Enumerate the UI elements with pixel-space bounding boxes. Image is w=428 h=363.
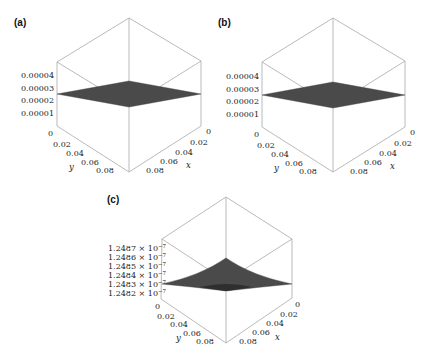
z-axis-ticks: 1.2487 × 10−7 1.2486 × 10−7 1.2485 × 10−… xyxy=(108,243,167,298)
surface-plane xyxy=(262,82,405,108)
y-axis-ticks: 0 0.02 0.04 0.06 0.08 y xyxy=(254,130,317,176)
y-axis-label: y xyxy=(175,333,181,343)
svg-text:0: 0 xyxy=(295,300,300,309)
svg-text:0.04: 0.04 xyxy=(379,149,397,158)
svg-text:0.08: 0.08 xyxy=(146,166,164,175)
panel-label-c: (c) xyxy=(107,194,119,205)
svg-text:0.06: 0.06 xyxy=(252,328,270,337)
svg-text:0: 0 xyxy=(410,128,415,137)
box-top-back-edges xyxy=(162,197,292,239)
x-axis-label: x xyxy=(186,160,191,170)
svg-text:0.08: 0.08 xyxy=(350,167,368,176)
svg-text:0.02: 0.02 xyxy=(190,138,208,147)
x-axis-ticks: 0 0.02 0.04 0.06 0.08 x xyxy=(146,127,211,175)
panel-a: (a) 0.00004 0.00003 0.00002 0.00001 0 0.… xyxy=(14,17,211,175)
svg-text:0.00002: 0.00002 xyxy=(21,96,54,105)
y-axis-ticks: 0 0.02 0.04 0.06 0.08 y xyxy=(155,302,214,346)
svg-text:0.08: 0.08 xyxy=(239,337,257,346)
svg-text:0: 0 xyxy=(254,130,259,139)
svg-text:1.2482 × 10−7: 1.2482 × 10−7 xyxy=(108,288,167,298)
svg-text:0.08: 0.08 xyxy=(196,337,214,346)
panel-label-b: (b) xyxy=(218,17,231,28)
z-axis-ticks: 0.00004 0.00003 0.00002 0.00001 xyxy=(226,72,259,119)
svg-text:0.06: 0.06 xyxy=(160,157,178,166)
x-axis-label: x xyxy=(390,161,395,171)
svg-text:0.02: 0.02 xyxy=(257,141,275,150)
surface-plane xyxy=(57,81,201,107)
x-axis-ticks: 0 0.02 0.04 0.06 0.08 x xyxy=(239,300,300,346)
x-axis-label: x xyxy=(275,332,280,342)
svg-text:0.06: 0.06 xyxy=(364,158,382,167)
svg-text:0.00004: 0.00004 xyxy=(21,71,54,80)
svg-text:0: 0 xyxy=(48,129,53,138)
svg-text:0.02: 0.02 xyxy=(280,310,298,319)
svg-text:0.04: 0.04 xyxy=(266,319,284,328)
panel-c: (c) 1.2487 × 10−7 1.2486 × 10−7 1.2485 ×… xyxy=(107,194,300,346)
y-axis-label: y xyxy=(273,163,279,173)
svg-text:0.04: 0.04 xyxy=(170,320,188,329)
svg-text:0.00003: 0.00003 xyxy=(226,85,259,94)
svg-text:0.04: 0.04 xyxy=(175,148,193,157)
figure-canvas: (a) 0.00004 0.00003 0.00002 0.00001 0 0.… xyxy=(0,0,428,363)
svg-text:0: 0 xyxy=(206,127,211,136)
panel-label-a: (a) xyxy=(14,17,26,28)
panel-b: (b) 0.00004 0.00003 0.00002 0.00001 0 0.… xyxy=(218,17,415,176)
svg-text:0: 0 xyxy=(155,302,160,311)
y-axis-ticks: 0 0.02 0.04 0.06 0.08 y xyxy=(48,129,114,175)
svg-text:0.02: 0.02 xyxy=(53,140,71,149)
svg-text:0.00002: 0.00002 xyxy=(226,97,259,106)
svg-text:0.00004: 0.00004 xyxy=(226,72,259,81)
svg-text:0.00003: 0.00003 xyxy=(21,84,54,93)
svg-text:0.02: 0.02 xyxy=(394,139,412,148)
svg-text:0.08: 0.08 xyxy=(299,167,317,176)
svg-text:0.04: 0.04 xyxy=(271,150,289,159)
z-axis-ticks: 0.00004 0.00003 0.00002 0.00001 xyxy=(21,71,54,118)
svg-text:0.08: 0.08 xyxy=(96,166,114,175)
svg-text:0.04: 0.04 xyxy=(66,149,84,158)
x-axis-ticks: 0 0.02 0.04 0.06 0.08 x xyxy=(350,128,415,176)
y-axis-label: y xyxy=(68,162,74,172)
svg-text:0.00001: 0.00001 xyxy=(226,110,259,119)
svg-text:0.00001: 0.00001 xyxy=(21,109,54,118)
box-top-back-edges xyxy=(262,18,405,62)
